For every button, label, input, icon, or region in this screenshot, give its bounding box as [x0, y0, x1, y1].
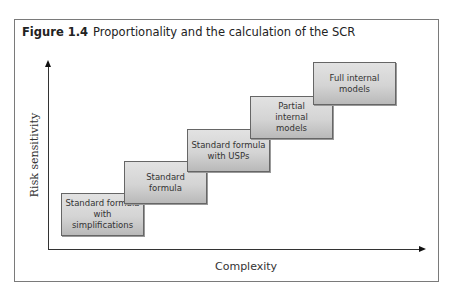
step-label: Standard formula with USPs — [191, 140, 266, 162]
y-axis-label: Risk sensitivity — [28, 113, 41, 197]
figure-caption: Proportionality and the calculation of t… — [93, 25, 355, 39]
step-box-full-internal-models: Full internal models — [313, 62, 396, 105]
x-axis — [48, 249, 420, 250]
x-axis-arrow-icon — [419, 246, 426, 252]
step-label: Partial internal models — [261, 101, 323, 134]
x-axis-label: Complexity — [215, 260, 277, 273]
step-label: Full internal models — [330, 73, 380, 95]
figure-title: Figure 1.4Proportionality and the calcul… — [22, 25, 355, 39]
y-axis — [48, 66, 49, 250]
figure-label: Figure 1.4 — [22, 25, 88, 39]
step-label: Standard formula — [141, 172, 191, 194]
y-axis-arrow-icon — [45, 60, 51, 67]
